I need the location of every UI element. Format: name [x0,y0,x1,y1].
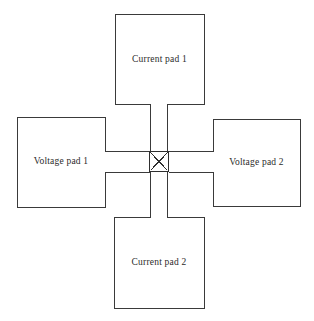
active-region-marker [150,152,169,172]
current-pad-2-label: Current pad 2 [114,257,204,267]
van-der-pauw-diagram: Current pad 1 Voltage pad 1 Voltage pad … [0,0,314,321]
voltage-pad-2-label: Voltage pad 2 [213,157,300,167]
voltage-pad-1-label: Voltage pad 1 [17,156,105,166]
current-pad-1-label: Current pad 1 [115,54,204,64]
